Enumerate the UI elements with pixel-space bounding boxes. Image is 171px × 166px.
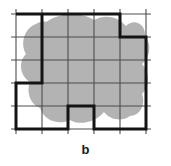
figure-caption: b [0,142,171,158]
figure-container: b [0,0,171,166]
